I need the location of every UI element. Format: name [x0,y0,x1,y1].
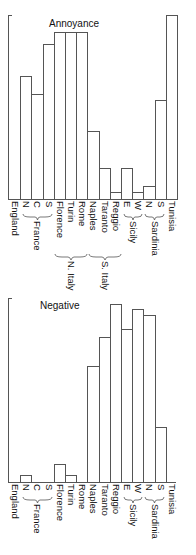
y-axis-top-tick [8,298,12,299]
bar-turin [65,475,77,482]
bar-s [155,427,167,482]
group-label-france: France [32,504,43,534]
group-label-sicily: Sicily [128,504,139,526]
brace-sardinia [144,497,165,503]
category-label: Florence [55,484,66,521]
category-label: Taranto [100,484,111,516]
brace-france [22,497,53,503]
y-axis [8,298,9,482]
category-label: N [144,484,155,491]
bar-n [20,475,32,482]
category-label: England [10,484,21,519]
brace-sicily [123,497,143,503]
chart-title: Negative [40,300,79,311]
category-label: Rome [77,484,88,509]
x-axis-baseline [8,482,176,483]
category-label: Tunisia [167,484,178,514]
category-label: S [156,484,167,490]
category-label: S [44,484,55,490]
negative-chart: Negative EnglandNCSFlorenceTurinRomeNapl… [0,0,196,555]
category-label: W [133,484,144,493]
category-label: Naples [88,484,99,514]
group-label-sardinia: Sardinia [150,504,161,539]
category-label: C [32,484,43,491]
category-label: Turin [66,484,77,505]
category-label: Reggio [111,484,122,514]
category-label: E [122,484,133,490]
category-label: N [21,484,32,491]
